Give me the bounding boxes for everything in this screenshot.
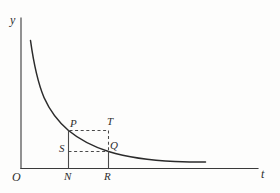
decay-curve — [31, 41, 206, 163]
point-label-t: T — [107, 116, 113, 127]
figure-drawing — [0, 0, 280, 193]
point-label-p: P — [70, 118, 77, 129]
point-label-s: S — [59, 143, 65, 154]
origin-label: O — [12, 171, 21, 183]
y-axis-label: y — [10, 14, 15, 26]
point-label-r: R — [104, 171, 111, 182]
x-axis-label: t — [261, 168, 264, 180]
point-label-n: N — [64, 171, 71, 182]
point-label-q: Q — [110, 140, 118, 151]
figure-canvas: y t O P T S Q N R — [0, 0, 280, 193]
